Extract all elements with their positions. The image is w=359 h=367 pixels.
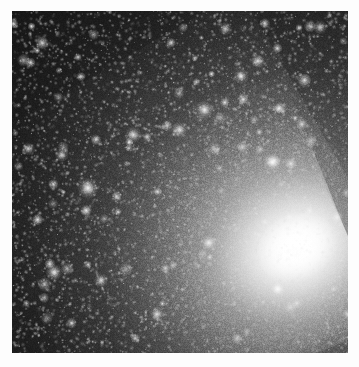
astronomy-image-viewport xyxy=(0,0,359,367)
astronomical-image-plate xyxy=(12,11,348,353)
image-grain-noise-layer xyxy=(12,11,348,353)
